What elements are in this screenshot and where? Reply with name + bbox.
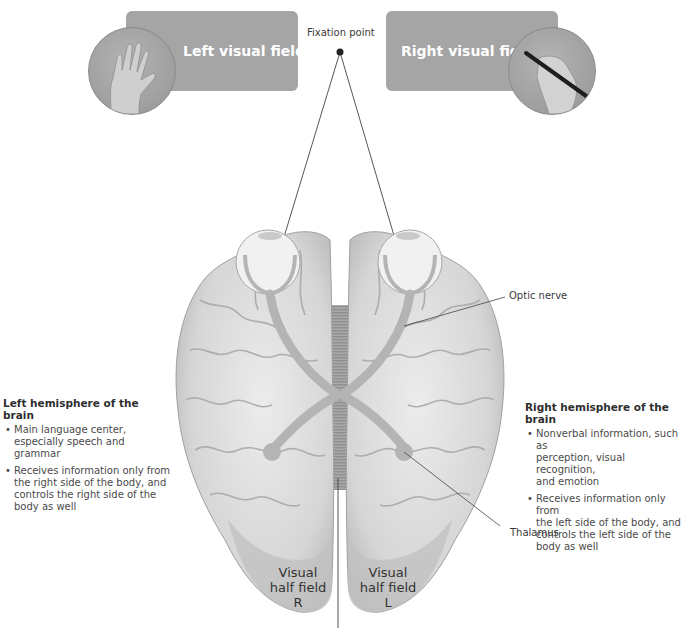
left-hemisphere-title: Left hemisphere of the brain [3, 397, 173, 421]
right-hemisphere-bullet-2: Receives information only from the left … [525, 493, 682, 553]
right-eye [378, 230, 442, 294]
visual-half-field-r: Visual half field R [262, 565, 334, 610]
right-hemisphere-bullet-1: Nonverbal information, such as perceptio… [525, 428, 682, 488]
left-hemisphere-bullet-2: Receives information only from the right… [3, 465, 173, 513]
left-eye [236, 230, 300, 294]
right-hemisphere-title: Right hemisphere of the brain [525, 401, 682, 425]
right-hemisphere-info: Right hemisphere of the brain Nonverbal … [525, 401, 682, 558]
left-thalamus [263, 443, 281, 461]
optic-nerve-label: Optic nerve [509, 290, 567, 301]
visual-half-field-l: Visual half field L [352, 565, 424, 610]
fixation-point-dot [337, 49, 344, 56]
left-hemisphere-bullet-1: Main language center, especially speech … [3, 424, 173, 460]
left-hemisphere-info: Left hemisphere of the brain Main langua… [3, 397, 173, 518]
